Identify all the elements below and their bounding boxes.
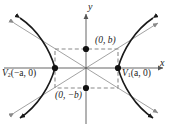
x-axis-label: x [160,58,164,68]
y-axis-label: y [88,2,92,12]
co-vertex-top-label: (0, b) [95,36,116,46]
vertex-right-label: V1(a, 0) [122,69,151,79]
hyperbola-figure: V2(−a, 0) V1(a, 0) (0, b) (0, −b) y x [0,0,173,128]
point-co-vertex-bottom [83,85,89,91]
hyperbola-graphic [0,0,173,128]
co-vertex-bottom-label: (0, −b) [55,91,82,101]
point-vertex-right [115,65,121,71]
point-co-vertex-top [83,46,89,52]
vertex-left-label: V2(−a, 0) [2,69,36,79]
point-vertex-left [52,65,58,71]
